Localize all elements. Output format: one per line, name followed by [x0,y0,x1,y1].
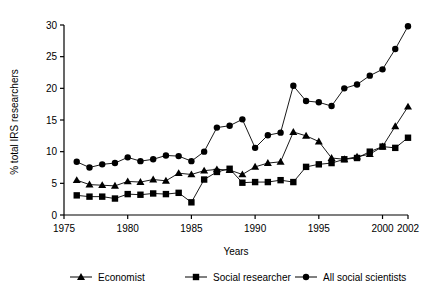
data-point [188,199,194,205]
x-axis-tick-label: 2000 [371,223,394,234]
data-point [214,169,220,175]
y-axis-tick-label: 15 [46,115,58,126]
data-point [303,164,309,170]
x-axis-tick-label: 2002 [397,223,420,234]
data-point [137,192,143,198]
data-point [392,46,398,52]
y-axis-tick-label: 10 [46,146,58,157]
data-point [354,81,360,87]
data-point [188,158,194,164]
data-point [86,164,92,170]
x-axis-tick-label: 1980 [117,223,140,234]
data-point [316,99,322,105]
y-axis-tick-label: 20 [46,83,58,94]
data-point [328,160,334,166]
data-point [163,191,169,197]
x-axis-tick-label: 1975 [53,223,76,234]
data-point [201,148,207,154]
data-point [252,145,258,151]
x-axis-tick-label: 1985 [180,223,203,234]
data-point [367,72,373,78]
data-point [379,143,385,149]
data-point [252,179,258,185]
data-point [74,192,80,198]
y-axis-tick-label: 25 [46,51,58,62]
chart-container: 051015202530 197519801985199019952000200… [0,0,445,295]
line-chart: 051015202530 197519801985199019952000200… [0,0,445,295]
x-axis-tick-label: 1990 [244,223,267,234]
data-point [316,161,322,167]
data-point [303,98,309,104]
data-point [137,158,143,164]
data-point [150,190,156,196]
x-axis-title: Years [223,246,248,257]
data-point [201,176,207,182]
data-point [277,129,283,135]
data-point [277,177,283,183]
data-point [163,152,169,158]
data-point [74,159,80,165]
legend-label: Social researcher [213,272,291,283]
data-point [290,179,296,185]
data-point [175,190,181,196]
data-point [405,135,411,141]
data-point [175,153,181,159]
data-point [405,23,411,29]
legend-marker-circle-icon [303,274,309,280]
data-point [226,166,232,172]
data-point [265,179,271,185]
data-point [239,180,245,186]
data-point [214,124,220,130]
data-point [328,103,334,109]
data-point [125,154,131,160]
data-point [392,145,398,151]
y-axis-tick-label: 30 [46,20,58,31]
data-point [86,193,92,199]
data-point [354,155,360,161]
legend-label: All social scientists [323,272,406,283]
data-point [112,195,118,201]
data-point [99,161,105,167]
y-axis-tick-label: 5 [51,178,57,189]
data-point [99,193,105,199]
data-point [150,156,156,162]
data-point [125,191,131,197]
data-point [341,156,347,162]
legend-marker-square-icon [193,274,199,280]
data-point [367,148,373,154]
y-axis-tick-label: 0 [51,210,57,221]
y-axis-title: % total IRS researchers [9,69,20,175]
data-point [290,83,296,89]
data-point [341,85,347,91]
legend-label: Economist [98,272,145,283]
data-point [239,116,245,122]
x-axis-tick-label: 1995 [308,223,331,234]
data-point [265,132,271,138]
data-point [226,123,232,129]
data-point [379,66,385,72]
data-point [112,160,118,166]
chart-legend: EconomistSocial researcherAll social sci… [70,272,406,283]
